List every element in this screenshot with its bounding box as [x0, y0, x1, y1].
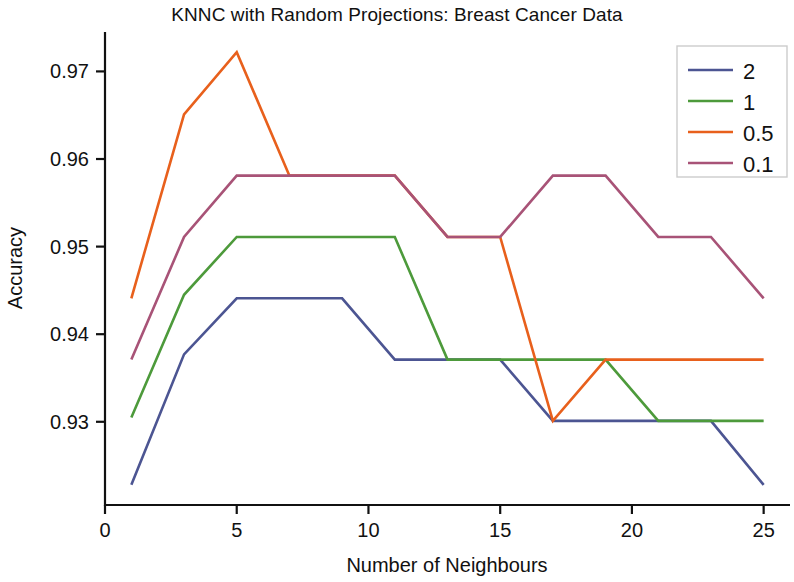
chart-plot-area: 0510152025 0.930.940.950.960.97 Number o…	[0, 0, 794, 582]
x-tick-label: 0	[99, 519, 110, 541]
legend-label-0.1[interactable]: 0.1	[743, 152, 774, 177]
chart-figure: KNNC with Random Projections: Breast Can…	[0, 0, 794, 582]
y-tick-label: 0.94	[50, 323, 89, 345]
y-axis-ticks: 0.930.940.950.960.97	[50, 60, 105, 432]
legend-label-1[interactable]: 1	[743, 90, 755, 115]
y-tick-label: 0.96	[50, 148, 89, 170]
data-series-group	[131, 52, 763, 485]
legend-label-2[interactable]: 2	[743, 59, 755, 84]
x-tick-label: 5	[231, 519, 242, 541]
y-tick-label: 0.97	[50, 60, 89, 82]
series-line-0.1	[131, 176, 763, 360]
y-tick-label: 0.93	[50, 411, 89, 433]
y-tick-label: 0.95	[50, 236, 89, 258]
x-tick-label: 10	[357, 519, 379, 541]
x-tick-label: 20	[621, 519, 643, 541]
series-line-1	[131, 237, 763, 421]
x-tick-label: 25	[753, 519, 775, 541]
x-axis-ticks: 0510152025	[99, 505, 774, 541]
y-axis-title: Accuracy	[4, 227, 26, 309]
chart-legend[interactable]: 210.50.1	[677, 46, 787, 177]
legend-label-0.5[interactable]: 0.5	[743, 121, 774, 146]
series-line-2	[131, 298, 763, 485]
x-axis-title: Number of Neighbours	[346, 554, 547, 576]
x-tick-label: 15	[489, 519, 511, 541]
